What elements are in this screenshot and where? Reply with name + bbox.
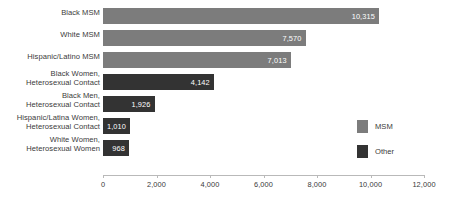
bar-value-1: 7,570 bbox=[283, 34, 302, 43]
bar-value-3: 4,142 bbox=[191, 78, 210, 87]
bar-1: 7,570 bbox=[103, 30, 306, 46]
bar-value-2: 7,013 bbox=[268, 56, 287, 65]
x-tick-mark-5 bbox=[371, 175, 372, 178]
category-label-1: White MSM bbox=[60, 31, 100, 40]
x-tick-label-6: 12,000 bbox=[412, 180, 435, 189]
x-tick-mark-4 bbox=[317, 175, 318, 178]
legend-item-other: Other bbox=[357, 145, 394, 158]
category-label-4: Black Men, Heterosexual Contact bbox=[26, 92, 100, 109]
bar-value-6: 968 bbox=[112, 144, 125, 153]
category-label-0: Black MSM bbox=[61, 9, 100, 18]
bar-0: 10,315 bbox=[103, 8, 379, 24]
x-tick-mark-6 bbox=[424, 175, 425, 178]
legend-item-msm: MSM bbox=[357, 120, 393, 133]
bar-value-0: 10,315 bbox=[352, 12, 375, 21]
bar-value-5: 1,010 bbox=[107, 122, 126, 131]
x-tick-mark-3 bbox=[264, 175, 265, 178]
legend-label-other: Other bbox=[375, 147, 394, 156]
x-tick-label-1: 2,000 bbox=[147, 180, 166, 189]
x-tick-label-5: 10,000 bbox=[359, 180, 382, 189]
x-tick-label-3: 6,000 bbox=[254, 180, 273, 189]
legend-label-msm: MSM bbox=[375, 122, 393, 131]
bar-5: 1,010 bbox=[103, 118, 130, 134]
legend-swatch-other-icon bbox=[357, 145, 368, 158]
legend-swatch-msm-icon bbox=[357, 120, 368, 133]
category-label-6: White Women, Heterosexual Women bbox=[26, 136, 100, 153]
x-tick-label-4: 8,000 bbox=[308, 180, 327, 189]
x-tick-mark-2 bbox=[210, 175, 211, 178]
x-tick-mark-0 bbox=[103, 175, 104, 178]
category-label-3: Black Women, Heterosexual Contact bbox=[26, 70, 100, 87]
bar-value-4: 1,926 bbox=[132, 100, 151, 109]
bar-6: 968 bbox=[103, 140, 129, 156]
x-tick-label-0: 0 bbox=[101, 180, 105, 189]
bar-chart: Black MSM White MSM Hispanic/Latino MSM … bbox=[0, 0, 452, 203]
category-label-2: Hispanic/Latino MSM bbox=[27, 53, 100, 62]
category-label-5: Hispanic/Latina Women, Heterosexual Cont… bbox=[17, 114, 100, 131]
bar-4: 1,926 bbox=[103, 96, 155, 112]
x-tick-label-2: 4,000 bbox=[201, 180, 220, 189]
bar-3: 4,142 bbox=[103, 74, 214, 90]
bar-2: 7,013 bbox=[103, 52, 291, 68]
x-tick-mark-1 bbox=[157, 175, 158, 178]
